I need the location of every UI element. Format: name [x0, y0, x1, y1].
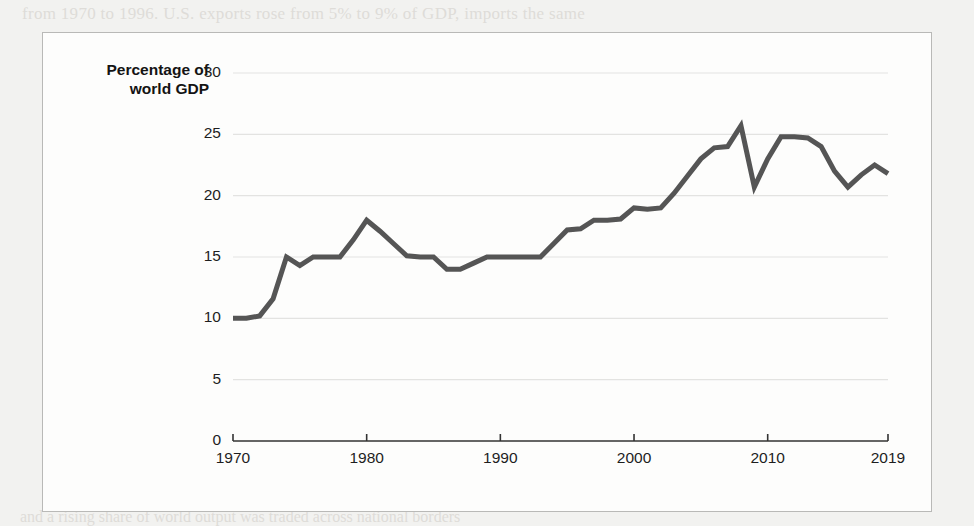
figure-frame: Percentage of world GDP 051015202530 197…	[42, 32, 932, 512]
y-tick-label: 20	[181, 186, 221, 204]
x-tick-label: 1990	[465, 449, 535, 467]
y-tick-label: 5	[181, 370, 221, 388]
y-tick-label: 25	[181, 124, 221, 142]
x-tick-label: 2019	[853, 449, 923, 467]
plot-svg	[43, 33, 933, 513]
x-tick-label: 2000	[599, 449, 669, 467]
gridlines	[233, 73, 888, 380]
y-tick-label: 15	[181, 247, 221, 265]
x-tick-label: 1980	[332, 449, 402, 467]
y-tick-label: 10	[181, 308, 221, 326]
x-tick-label: 2010	[733, 449, 803, 467]
axis-lines	[233, 434, 888, 441]
page-bleed-text-top: from 1970 to 1996. U.S. exports rose fro…	[22, 4, 585, 24]
line-chart: Percentage of world GDP 051015202530 197…	[43, 33, 933, 513]
x-tick-label: 1970	[198, 449, 268, 467]
data-line	[233, 126, 888, 319]
y-tick-label: 0	[181, 431, 221, 449]
data-series-group	[233, 126, 888, 319]
y-tick-label: 30	[181, 63, 221, 81]
